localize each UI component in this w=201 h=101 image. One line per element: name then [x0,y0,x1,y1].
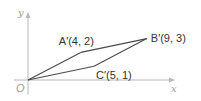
edge-c-prime-to-o [28,66,94,80]
x-axis-label: x [171,83,177,94]
edge-o-to-a-prime [28,52,81,80]
point-label-b-prime: B′(9, 3) [151,32,186,44]
parallelogram-diagram: x y O A′(4, 2) B′(9, 3) C′(5, 1) [0,0,201,101]
origin-label: O [16,82,25,94]
y-axis-arrow-icon [26,12,31,18]
x-axis-arrow-icon [169,78,175,83]
edge-b-prime-to-c-prime [94,39,147,67]
point-label-a-prime: A′(4, 2) [59,35,94,47]
point-label-c-prime: C′(5, 1) [96,69,132,81]
y-axis-label: y [17,7,24,18]
